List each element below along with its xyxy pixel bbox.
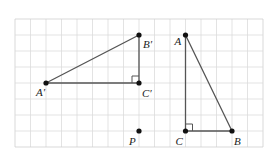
point-label-A: A: [174, 35, 182, 47]
point-C1: [136, 80, 141, 85]
point-P: [136, 128, 141, 133]
point-label-C: C: [176, 135, 184, 147]
point-label-P: P: [128, 135, 136, 147]
point-B1: [136, 32, 141, 37]
diagram-canvas: A′B′C′PACB: [0, 0, 268, 158]
point-C: [183, 128, 188, 133]
point-A: [183, 32, 188, 37]
point-label-B: B: [234, 135, 241, 147]
point-label-A1: A′: [35, 86, 46, 98]
point-label-B1: B′: [143, 38, 153, 50]
point-label-C1: C′: [142, 87, 152, 99]
point-B: [229, 128, 234, 133]
point-A1: [43, 80, 48, 85]
